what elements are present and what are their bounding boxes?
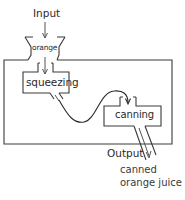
process-diagram: Input orange squeezing canning Output ca…: [0, 0, 185, 200]
output-product-line2: orange juice: [120, 176, 182, 189]
output-product-line1: canned: [120, 163, 182, 176]
input-label: Input: [33, 8, 60, 19]
input-material-label: orange: [32, 44, 57, 52]
output-product-label: canned orange juice: [120, 163, 182, 189]
input-arrow: [43, 22, 48, 38]
output-label: Output: [107, 148, 143, 159]
hopper-feed-arrow: [43, 57, 48, 74]
squeezing-stage-label: squeezing: [26, 77, 79, 88]
canning-stage-label: canning: [115, 110, 154, 120]
